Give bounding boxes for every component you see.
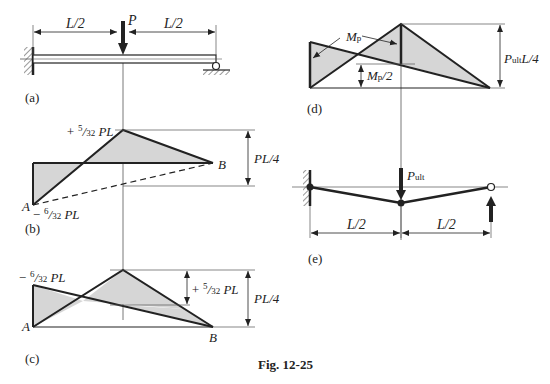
span-right-label: L/2 [437,218,456,232]
positive-moment-label: + 5/32 PL [66,124,114,138]
free-moment-label: PL/4 [254,152,279,165]
fixed-support-hatch [24,47,33,75]
free-moment-label: PL/4 [254,292,279,305]
positive-moment-label: + 5/32 PL [191,282,239,296]
point-a-label: A [22,320,30,333]
roller-hinge [488,184,495,191]
plastic-hinge-left [307,184,314,191]
load-arrow-p [121,21,125,43]
span-left-label: L/2 [66,17,85,31]
panel-c-superposition [33,270,255,327]
panel-tag-e: (e) [308,252,322,265]
panel-d-plastic-diagram [310,24,505,88]
panel-a-beam [20,21,230,75]
figure-canvas [0,0,550,384]
roller-support [213,63,220,70]
ultimate-free-moment-label: PultL/4 [504,52,539,65]
panel-tag-c: (c) [25,352,39,365]
figure-caption: Fig. 12-25 [258,358,313,371]
panel-tag-b: (b) [25,222,40,235]
load-label: P [128,14,137,28]
panel-tag-d: (d) [307,102,322,115]
reaction-arrow [489,206,493,222]
panel-e-mechanism [292,168,508,238]
plastic-moment-label: Mp [346,30,361,43]
panel-tag-a: (a) [25,91,39,104]
span-right-label: L/2 [164,17,183,31]
load-label: Pult [407,169,424,182]
point-b-label: B [218,158,226,171]
point-b-label: B [209,331,217,344]
half-plastic-moment-label: Mp/2 [367,69,392,82]
span-left-label: L/2 [347,218,366,232]
negative-moment-label: − 6/32 PL [18,270,66,284]
negative-moment-label: − 6/32 PL [32,207,80,221]
point-a-label: A [22,200,30,213]
plastic-hinge-mid [398,200,405,207]
load-arrow-pult [399,168,403,190]
